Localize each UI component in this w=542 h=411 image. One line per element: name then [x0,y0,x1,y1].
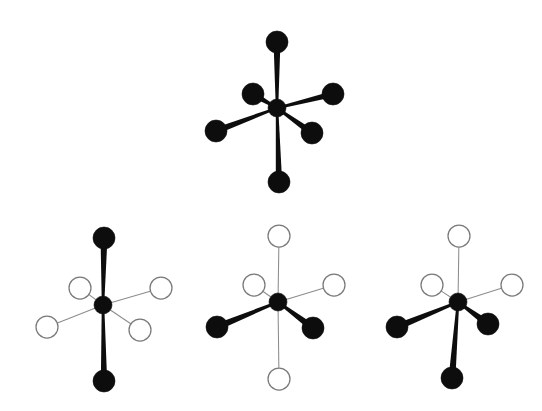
atom-center [269,293,287,311]
atom-filled-equatorial-upper-left [242,83,264,105]
atom-filled-axial-up [266,31,288,53]
atom-open-equatorial-lower-right [129,319,151,341]
octahedral-isomers-figure [0,0,542,411]
atom-filled-equatorial-lower-left [386,316,408,338]
atom-filled-axial-up [93,227,115,249]
atom-open-axial-up [268,225,290,247]
atom-center [94,296,112,314]
atom-open-axial-down [268,368,290,390]
atom-open-axial-up [448,225,470,247]
atom-filled-equatorial-upper-right [322,83,344,105]
atom-filled-equatorial-lower-right [302,317,324,339]
atom-filled-equatorial-lower-right [301,122,323,144]
atom-open-equatorial-upper-left [421,274,443,296]
atom-open-equatorial-upper-left [243,274,265,296]
atom-filled-axial-down [441,367,463,389]
atom-filled-axial-down [268,171,290,193]
atom-filled-equatorial-lower-right [477,313,499,335]
atom-open-equatorial-upper-left [69,277,91,299]
atom-open-equatorial-upper-right [501,274,523,296]
atom-open-equatorial-lower-left [36,316,58,338]
atom-center [268,99,286,117]
figure-background [0,0,542,411]
atom-open-equatorial-upper-right [150,277,172,299]
atom-filled-equatorial-lower-left [205,120,227,142]
atom-filled-axial-down [93,370,115,392]
atom-filled-equatorial-lower-left [206,316,228,338]
atom-center [449,293,467,311]
atom-open-equatorial-upper-right [323,274,345,296]
